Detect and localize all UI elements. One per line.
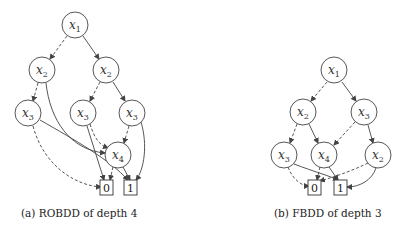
edge-high <box>294 164 338 180</box>
node-x3: x3 <box>271 142 297 168</box>
edge-high <box>136 122 145 180</box>
edge-low <box>50 36 67 59</box>
edge-high <box>309 124 318 143</box>
edge-low <box>90 82 100 101</box>
terminal-1: 1 <box>124 180 137 195</box>
node-x2: x2 <box>93 57 119 83</box>
caption-fbdd: (b) FBDD of depth 3 <box>274 207 382 219</box>
edge-low <box>290 124 297 143</box>
edge-high <box>83 36 99 59</box>
node-x1: x1 <box>321 57 347 83</box>
bdd-figure: x1 x2 x2 x3 x3 x3 x4 0 <box>0 0 402 241</box>
edge-low <box>288 167 309 186</box>
node-x3: x3 <box>119 100 145 126</box>
node-x2: x2 <box>365 142 391 168</box>
svg-text:1: 1 <box>127 182 134 195</box>
svg-text:0: 0 <box>103 182 110 195</box>
node-x4: x4 <box>311 142 337 168</box>
svg-text:0: 0 <box>311 182 318 195</box>
edge-high <box>342 82 356 101</box>
terminal-1: 1 <box>334 180 347 195</box>
edge-high <box>347 168 376 187</box>
terminal-0: 0 <box>100 180 113 195</box>
fbdd-edges <box>288 82 376 187</box>
node-x4: x4 <box>105 142 131 168</box>
robdd-nodes: x1 x2 x2 x3 x3 x3 x4 0 <box>15 12 145 195</box>
node-x2: x2 <box>29 57 55 83</box>
terminal-0: 0 <box>308 180 321 195</box>
svg-text:1: 1 <box>337 182 344 195</box>
edge-high <box>368 125 373 143</box>
caption-robdd: (a) ROBDD of depth 4 <box>21 207 137 219</box>
node-x1: x1 <box>62 12 88 38</box>
edge-low <box>334 122 355 145</box>
edge-high <box>113 82 125 101</box>
node-x3: x3 <box>15 100 41 126</box>
edge-low <box>311 82 327 101</box>
node-x2: x2 <box>290 99 316 125</box>
node-x3: x3 <box>70 100 96 126</box>
edge-low <box>110 167 113 180</box>
node-x3: x3 <box>351 99 377 125</box>
edge-low <box>33 83 38 101</box>
edge-low <box>124 126 129 143</box>
